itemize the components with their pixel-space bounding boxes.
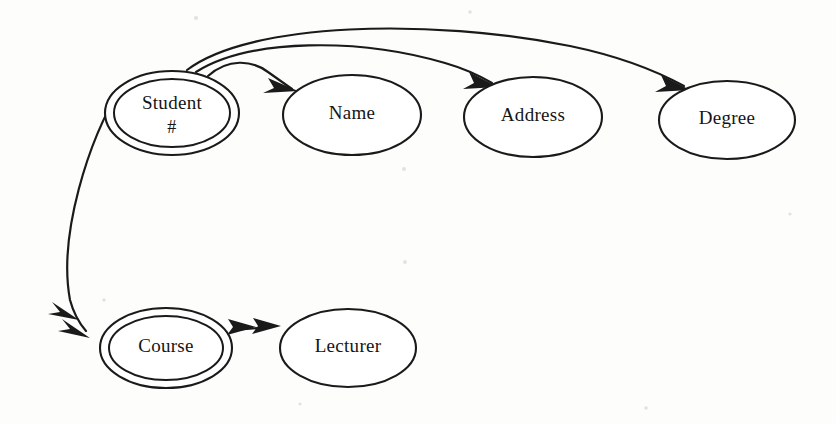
node-degree[interactable]: Degree	[659, 81, 795, 159]
degree-label: Degree	[699, 107, 756, 128]
arrowhead-lecturer-inner	[227, 319, 256, 335]
diagram-svg: Student # Name Address Degree	[0, 0, 836, 424]
nodes-layer: Student # Name Address Degree	[100, 71, 795, 388]
name-label: Name	[329, 102, 376, 123]
lecturer-label: Lecturer	[315, 335, 382, 356]
edge-course-to-lecturer[interactable]	[227, 318, 281, 335]
node-name[interactable]: Name	[283, 75, 421, 155]
node-course[interactable]: Course	[100, 308, 232, 388]
diagram-canvas: Student # Name Address Degree	[0, 0, 836, 424]
node-lecturer[interactable]: Lecturer	[280, 309, 416, 387]
arrowhead-lecturer-outer	[252, 318, 281, 334]
node-student[interactable]: Student #	[105, 71, 239, 155]
student-label: Student	[142, 92, 203, 113]
node-address[interactable]: Address	[464, 77, 602, 157]
edge-student-to-degree-path	[187, 29, 684, 86]
course-label: Course	[138, 335, 194, 356]
student-sublabel: #	[167, 117, 176, 137]
address-label: Address	[501, 104, 565, 125]
